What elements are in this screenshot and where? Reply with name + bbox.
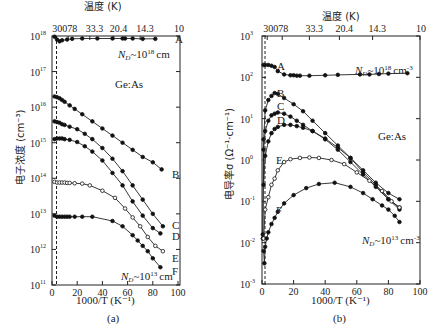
data-point bbox=[270, 222, 274, 226]
curve-F bbox=[55, 216, 161, 268]
curve-E bbox=[264, 158, 400, 239]
data-point bbox=[111, 157, 115, 161]
data-point bbox=[121, 184, 125, 188]
y-tick-label: 10-2 bbox=[240, 237, 255, 249]
data-point bbox=[263, 245, 267, 249]
series-label-E: E bbox=[276, 154, 283, 166]
data-point bbox=[282, 160, 286, 164]
panel-b-x-axis-label: 1000/T (K⁻¹) bbox=[311, 294, 370, 307]
data-point bbox=[308, 74, 312, 78]
data-point bbox=[131, 184, 135, 188]
panel-a-x-axis-label: 1000/T (K⁻¹) bbox=[76, 294, 135, 307]
y-tick-label: 100 bbox=[240, 154, 253, 166]
data-point bbox=[161, 249, 165, 253]
panel-a-caption: (a) bbox=[107, 312, 120, 325]
x-tick-label: 80 bbox=[383, 286, 393, 297]
data-point bbox=[63, 100, 67, 104]
data-point bbox=[65, 38, 69, 42]
y-tick-label: 1011 bbox=[30, 279, 46, 291]
top-tick-label: 30078 bbox=[263, 23, 288, 34]
data-point bbox=[262, 249, 266, 253]
panel-a-material-label: Ge:As bbox=[115, 78, 143, 90]
data-point bbox=[270, 94, 274, 98]
data-point bbox=[151, 160, 155, 164]
curve-B bbox=[55, 97, 162, 170]
data-point bbox=[292, 193, 296, 197]
data-point bbox=[282, 202, 286, 206]
panel-b-top-ticks: 3007833.320.414.310 bbox=[263, 23, 426, 40]
data-point bbox=[323, 137, 327, 141]
panel-b-y-axis-label: 电导率σ (Ω⁻¹·cm⁻¹) bbox=[223, 108, 235, 200]
data-point bbox=[80, 182, 84, 186]
data-point bbox=[380, 189, 384, 193]
data-point bbox=[141, 155, 145, 159]
data-point bbox=[154, 37, 158, 41]
data-point bbox=[311, 119, 315, 123]
data-point bbox=[68, 181, 72, 185]
y-tick-label: 102 bbox=[240, 71, 253, 83]
data-point bbox=[75, 140, 79, 144]
data-point bbox=[63, 123, 67, 127]
data-point bbox=[262, 183, 266, 187]
data-point bbox=[355, 171, 359, 175]
data-point bbox=[63, 137, 67, 141]
series-label-A: A bbox=[277, 60, 285, 72]
data-point bbox=[263, 154, 267, 158]
curve-F bbox=[264, 183, 400, 264]
data-point bbox=[96, 37, 100, 41]
data-point bbox=[75, 127, 79, 131]
data-point bbox=[101, 127, 105, 131]
data-point bbox=[368, 179, 372, 183]
data-point bbox=[295, 124, 299, 128]
data-point bbox=[154, 244, 158, 248]
series-label-F: F bbox=[172, 265, 178, 277]
data-point bbox=[121, 169, 125, 173]
top-tick-label: 14.3 bbox=[136, 23, 154, 34]
series-label-D: D bbox=[172, 230, 180, 242]
data-point bbox=[267, 119, 271, 123]
data-point bbox=[267, 140, 271, 144]
top-tick-label: 14.3 bbox=[369, 23, 387, 34]
panel-b-nd-low-label: ND~1013cm-3 bbox=[361, 234, 420, 248]
data-point bbox=[342, 162, 346, 166]
data-point bbox=[138, 225, 142, 229]
data-point bbox=[301, 126, 305, 130]
data-point bbox=[336, 73, 340, 77]
curve-D bbox=[55, 138, 161, 233]
data-point bbox=[73, 107, 77, 111]
data-point bbox=[121, 225, 125, 229]
data-point bbox=[80, 37, 84, 41]
x-tick-label: 0 bbox=[260, 286, 265, 297]
data-point bbox=[361, 171, 365, 175]
x-tick-label: 80 bbox=[148, 287, 158, 298]
data-point bbox=[83, 132, 87, 136]
y-tick-label: 103 bbox=[240, 30, 253, 42]
top-tick-label: 33.3 bbox=[86, 23, 104, 34]
data-point bbox=[159, 265, 163, 269]
data-point bbox=[273, 177, 277, 181]
data-point bbox=[298, 74, 302, 78]
data-point bbox=[387, 72, 391, 76]
data-point bbox=[68, 138, 72, 142]
data-point bbox=[73, 181, 77, 185]
y-tick-label: 10-1 bbox=[240, 195, 255, 207]
top-tick-label: 30078 bbox=[52, 23, 77, 34]
y-tick-label: 101 bbox=[240, 113, 253, 125]
data-point bbox=[323, 73, 327, 77]
data-point bbox=[151, 226, 155, 230]
data-point bbox=[398, 197, 402, 201]
y-tick-label: 1015 bbox=[30, 137, 46, 149]
data-point bbox=[330, 158, 334, 162]
data-point bbox=[393, 214, 397, 218]
data-point bbox=[273, 65, 277, 69]
data-point bbox=[141, 37, 145, 41]
data-point bbox=[91, 137, 95, 141]
y-tick-label: 1013 bbox=[30, 208, 46, 220]
panel-b-series-labels: ABCDEF bbox=[276, 60, 285, 216]
data-point bbox=[80, 112, 84, 116]
data-point bbox=[88, 184, 92, 188]
data-point bbox=[267, 195, 271, 199]
data-point bbox=[159, 232, 163, 236]
data-point bbox=[323, 131, 327, 135]
data-point bbox=[263, 208, 267, 212]
